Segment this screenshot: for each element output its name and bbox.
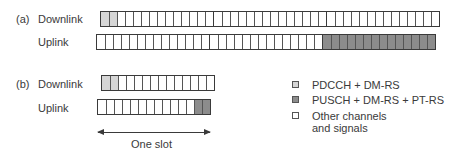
- symbol-cell: [106, 100, 114, 114]
- symbol-cell: [339, 35, 347, 49]
- symbol-cell: [154, 100, 162, 114]
- slot: [322, 35, 435, 49]
- symbol-cell: [190, 76, 198, 90]
- symbol-cell: [165, 12, 173, 26]
- symbol-cell: [185, 35, 193, 49]
- symbol-cell: [146, 100, 154, 114]
- symbol-cell: [113, 35, 121, 49]
- symbol-cell: [133, 12, 141, 26]
- symbol-cell: [186, 100, 194, 114]
- symbol-cell: [335, 12, 343, 26]
- panel-b-uplink-bar: [97, 99, 211, 115]
- symbol-cell: [161, 35, 169, 49]
- symbol-cell: [206, 76, 214, 90]
- symbol-cell: [294, 12, 302, 26]
- symbol-cell: [310, 12, 318, 26]
- symbol-cell: [114, 100, 122, 114]
- symbol-cell: [274, 35, 282, 49]
- symbol-cell: [383, 12, 391, 26]
- slot: [209, 35, 322, 49]
- symbol-cell: [142, 76, 150, 90]
- legend-label-other-line2: and signals: [312, 122, 368, 134]
- symbol-cell: [395, 35, 403, 49]
- symbol-cell: [189, 12, 197, 26]
- symbol-cell: [415, 12, 423, 26]
- symbol-cell: [117, 12, 125, 26]
- symbol-cell: [170, 100, 178, 114]
- symbol-cell: [327, 12, 335, 26]
- symbol-cell: [266, 35, 274, 49]
- symbol-cell: [218, 35, 226, 49]
- one-slot-double-arrow-icon: [98, 132, 210, 133]
- panel-b-downlink-bar: [101, 75, 215, 91]
- symbol-cell: [318, 12, 326, 26]
- symbol-cell: [270, 12, 278, 26]
- symbol-cell: [347, 35, 355, 49]
- symbol-cell: [201, 35, 209, 49]
- symbol-cell: [290, 35, 298, 49]
- symbol-cell: [343, 12, 351, 26]
- symbol-cell: [262, 12, 270, 26]
- symbol-cell: [278, 12, 286, 26]
- symbol-cell: [306, 35, 314, 49]
- symbol-cell: [198, 76, 206, 90]
- symbol-cell: [423, 12, 431, 26]
- symbol-cell: [109, 12, 117, 26]
- symbol-cell: [98, 100, 106, 114]
- symbol-cell: [145, 35, 153, 49]
- symbol-cell: [331, 35, 339, 49]
- symbol-cell: [427, 35, 435, 49]
- symbol-cell: [254, 12, 262, 26]
- symbol-cell: [379, 35, 387, 49]
- symbol-cell: [141, 12, 149, 26]
- symbol-cell: [173, 12, 181, 26]
- symbol-cell: [126, 76, 134, 90]
- symbol-cell: [298, 35, 306, 49]
- symbol-cell: [138, 100, 146, 114]
- symbol-cell: [125, 12, 133, 26]
- symbol-cell: [371, 35, 379, 49]
- symbol-cell: [363, 35, 371, 49]
- symbol-cell: [282, 35, 290, 49]
- symbol-cell: [177, 35, 185, 49]
- symbol-cell: [150, 76, 158, 90]
- symbol-cell: [367, 12, 375, 26]
- symbol-cell: [214, 12, 222, 26]
- slot: [326, 12, 439, 26]
- legend-swatch-other: [292, 112, 299, 119]
- symbol-cell: [178, 100, 186, 114]
- symbol-cell: [387, 35, 395, 49]
- panel-a-tag: (a): [16, 13, 29, 25]
- symbol-cell: [157, 12, 165, 26]
- symbol-cell: [181, 12, 189, 26]
- symbol-cell: [169, 35, 177, 49]
- symbol-cell: [158, 76, 166, 90]
- symbol-cell: [314, 35, 322, 49]
- symbol-cell: [194, 100, 202, 114]
- symbol-cell: [149, 12, 157, 26]
- symbol-cell: [166, 76, 174, 90]
- panel-b-uplink-label: Uplink: [38, 102, 69, 114]
- symbol-cell: [118, 76, 126, 90]
- slot: [98, 100, 210, 114]
- symbol-cell: [411, 35, 419, 49]
- panel-b-downlink-label: Downlink: [38, 78, 83, 90]
- symbol-cell: [238, 12, 246, 26]
- symbol-cell: [407, 12, 415, 26]
- slot: [101, 12, 213, 26]
- symbol-cell: [182, 76, 190, 90]
- symbol-cell: [286, 12, 294, 26]
- legend-swatch-pdcch: [292, 81, 299, 88]
- symbol-cell: [375, 12, 383, 26]
- symbol-cell: [134, 76, 142, 90]
- symbol-cell: [302, 12, 310, 26]
- symbol-cell: [129, 35, 137, 49]
- symbol-cell: [351, 12, 359, 26]
- legend-label-pusch: PUSCH + DM-RS + PT-RS: [312, 94, 444, 106]
- symbol-cell: [102, 76, 110, 90]
- one-slot-label: One slot: [131, 138, 172, 150]
- symbol-cell: [162, 100, 170, 114]
- symbol-cell: [323, 35, 331, 49]
- symbol-cell: [205, 12, 213, 26]
- symbol-cell: [174, 76, 182, 90]
